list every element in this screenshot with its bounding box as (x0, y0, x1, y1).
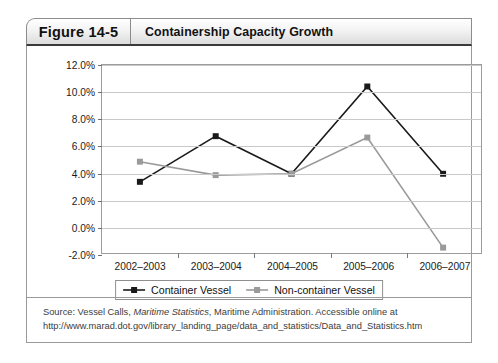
source-note: Source: Vessel Calls, Maritime Statistic… (27, 297, 471, 342)
figure-number: Figure 14-5 (27, 19, 131, 44)
data-point-marker (137, 179, 143, 185)
x-axis-tick-mark (178, 253, 179, 258)
legend-label: Non-container Vessel (274, 284, 375, 296)
y-axis-tick-mark (98, 201, 102, 202)
x-axis-tick-label: 2004–2005 (267, 261, 318, 272)
gridline (102, 65, 481, 66)
gridline (102, 92, 481, 93)
y-axis-tick-mark (98, 65, 102, 66)
y-axis-tick-mark (98, 228, 102, 229)
figure-header: Figure 14-5 Containership Capacity Growt… (26, 18, 472, 46)
x-axis-tick-label: 2003–2004 (191, 261, 242, 272)
y-axis-tick-mark (98, 174, 102, 175)
series-line (140, 86, 443, 181)
figure-body: -2.0%0.0%2.0%4.0%6.0%8.0%10.0%12.0%2002–… (26, 46, 472, 343)
data-point-marker (440, 245, 446, 251)
y-axis-tick-label: 12.0% (66, 60, 95, 71)
figure-container: Figure 14-5 Containership Capacity Growt… (0, 0, 498, 363)
y-axis-tick-mark (98, 255, 102, 256)
gridline (102, 119, 481, 120)
legend-label: Container Vessel (151, 284, 231, 296)
y-axis-tick-label: 4.0% (72, 168, 95, 179)
y-axis-tick-label: 10.0% (66, 87, 95, 98)
y-axis-tick-label: 8.0% (72, 114, 95, 125)
legend-key-icon (245, 285, 269, 295)
x-axis-tick-mark (254, 253, 255, 258)
x-axis-tick-mark (331, 253, 332, 258)
data-point-marker (364, 84, 370, 90)
source-italic-title: Maritime Statistics (133, 307, 208, 317)
chart-series-layer (102, 65, 481, 253)
y-axis-tick-mark (98, 146, 102, 147)
y-axis-tick-label: 6.0% (72, 141, 95, 152)
data-point-marker (213, 133, 219, 139)
gridline (102, 174, 481, 175)
x-axis-tick-label: 2002–2003 (115, 261, 166, 272)
gridline (102, 228, 481, 229)
data-point-marker (364, 135, 370, 141)
chart-area: -2.0%0.0%2.0%4.0%6.0%8.0%10.0%12.0%2002–… (27, 46, 473, 298)
plot-area: -2.0%0.0%2.0%4.0%6.0%8.0%10.0%12.0%2002–… (101, 64, 482, 254)
legend-item: Non-container Vessel (245, 284, 375, 296)
y-axis-tick-label: 2.0% (72, 195, 95, 206)
y-axis-tick-label: -2.0% (68, 250, 95, 261)
gridline (102, 146, 481, 147)
data-point-marker (137, 159, 143, 165)
x-axis-tick-label: 2005–2006 (343, 261, 394, 272)
x-axis-tick-label: 2006–2007 (419, 261, 470, 272)
source-prefix: Source: Vessel Calls, (43, 307, 133, 317)
legend-key-icon (122, 285, 146, 295)
y-axis-tick-mark (98, 119, 102, 120)
x-axis-tick-mark (407, 253, 408, 258)
y-axis-tick-label: 0.0% (72, 222, 95, 233)
figure-caption: Containership Capacity Growth (131, 19, 471, 44)
gridline (102, 201, 481, 202)
y-axis-tick-mark (98, 92, 102, 93)
legend-item: Container Vessel (122, 284, 231, 296)
